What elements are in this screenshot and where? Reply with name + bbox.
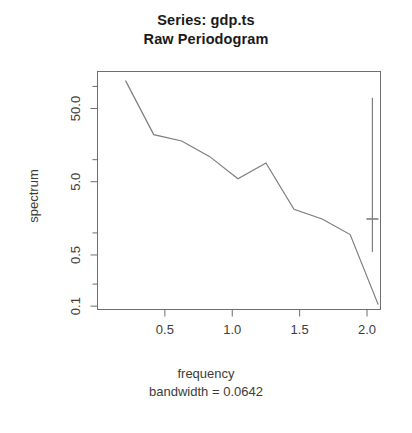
y-axis-tick-label: 50.0 xyxy=(69,96,84,121)
confidence-interval-bar xyxy=(366,98,378,252)
x-axis-tick-label: 1.0 xyxy=(223,322,241,337)
y-axis-tick-label: 0.1 xyxy=(69,297,84,315)
y-axis-tick-label: 0.5 xyxy=(69,246,84,264)
x-axis-title: frequency xyxy=(0,365,412,383)
y-axis-tick-label: 5.0 xyxy=(69,173,84,191)
y-axis-title: spectrum xyxy=(26,169,41,222)
x-axis-tick-labels: 0.51.01.52.0 xyxy=(156,322,376,337)
x-axis-tick-label: 2.0 xyxy=(358,322,376,337)
periodogram-screenshot: Series: gdp.ts Raw Periodogram 50.05.00.… xyxy=(0,0,412,433)
spectrum-series-line xyxy=(126,81,379,305)
bandwidth-subtitle: bandwidth = 0.0642 xyxy=(0,383,412,401)
x-axis-tick-label: 1.5 xyxy=(291,322,309,337)
y-axis-tick-labels: 50.05.00.50.1 xyxy=(69,96,84,315)
y-axis-ticks xyxy=(91,86,98,306)
x-axis-tick-label: 0.5 xyxy=(156,322,174,337)
x-axis-caption-block: frequency bandwidth = 0.0642 xyxy=(0,365,412,401)
x-axis-ticks xyxy=(165,310,367,317)
